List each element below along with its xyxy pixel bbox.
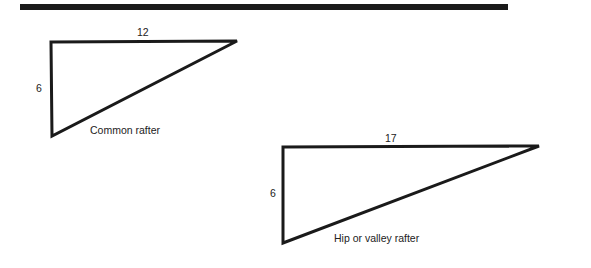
common-rafter-run-label: 12	[137, 26, 149, 38]
common-rafter-caption: Common rafter	[90, 124, 160, 136]
hip-valley-rafter-run-label: 17	[385, 132, 397, 144]
diagram-canvas	[0, 0, 591, 268]
hip-valley-rafter-rise-label: 6	[270, 187, 276, 199]
common-rafter-triangle	[51, 41, 237, 136]
hip-valley-rafter-caption: Hip or valley rafter	[334, 232, 419, 244]
rafter-diagrams: 12 6 Common rafter 17 6 Hip or valley ra…	[0, 0, 591, 268]
common-rafter-rise-label: 6	[36, 82, 42, 94]
hip-valley-rafter-triangle	[283, 146, 539, 243]
